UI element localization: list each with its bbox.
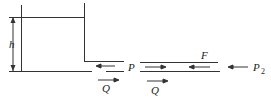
label-h: h xyxy=(9,38,15,50)
arrow-right-icon xyxy=(163,79,168,83)
arrow-down-icon xyxy=(11,65,16,71)
arrow-left-icon xyxy=(228,65,233,69)
label-p: P xyxy=(127,61,135,73)
arrow-left-icon xyxy=(189,65,194,69)
arrow-left-icon xyxy=(96,64,101,68)
label-p2-subscript: 2 xyxy=(261,67,265,76)
label-f: F xyxy=(200,49,208,61)
tank-pipe-diagram: h P F P 2 Q Q xyxy=(0,0,271,99)
label-q-left: Q xyxy=(102,82,110,94)
label-q-right: Q xyxy=(151,84,159,96)
arrow-right-icon xyxy=(161,65,166,69)
label-p2: P xyxy=(252,61,260,73)
arrow-right-icon xyxy=(114,78,119,82)
